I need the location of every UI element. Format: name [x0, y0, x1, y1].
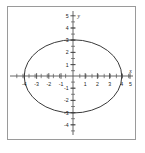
y-tick-label: 3	[66, 37, 69, 43]
axes-group	[10, 11, 133, 135]
y-axis-name-label: y	[77, 13, 81, 19]
y-tick-label: 4	[66, 25, 69, 31]
y-tick-label: 5	[66, 13, 69, 19]
figure-root: -4 -3 -2 -1 1 2 3 4 5 5 4 3 2 1 -1 -2 -3…	[0, 0, 145, 153]
x-tick-label: 2	[96, 81, 99, 87]
y-tick-labels: 5 4 3 2 1 -1 -2 -3 -4	[64, 13, 69, 128]
x-tick-label: -1	[59, 81, 64, 87]
x-tick-label: 1	[84, 81, 87, 87]
x-tick-label: -3	[34, 81, 39, 87]
y-tick-label: -3	[64, 110, 69, 116]
x-tick-label: -4	[22, 81, 27, 87]
x-tick-labels: -4 -3 -2 -1 1 2 3 4 5	[22, 81, 132, 87]
x-tick-label: 3	[108, 81, 111, 87]
x-axis-name-label: x	[128, 68, 132, 74]
y-tick-label: 1	[66, 62, 69, 68]
x-tick-label: -2	[46, 81, 51, 87]
y-tick-label: -4	[64, 122, 69, 128]
y-tick-label: 2	[66, 49, 69, 55]
coordinate-plane-svg: -4 -3 -2 -1 1 2 3 4 5 5 4 3 2 1 -1 -2 -3…	[8, 7, 135, 139]
y-tick-label: -2	[64, 97, 69, 103]
y-tick-label: -1	[64, 85, 69, 91]
x-tick-label: 5	[129, 81, 132, 87]
x-tick-label: 4	[120, 81, 123, 87]
plot-frame: -4 -3 -2 -1 1 2 3 4 5 5 4 3 2 1 -1 -2 -3…	[7, 6, 136, 140]
